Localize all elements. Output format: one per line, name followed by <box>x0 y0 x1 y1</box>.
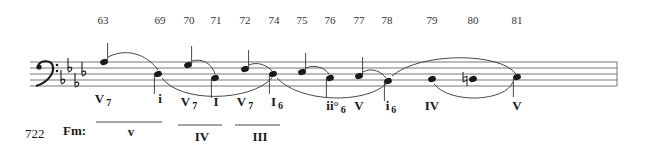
key-label: Fm: <box>63 123 86 139</box>
staff <box>30 62 617 86</box>
measure-number: 71 <box>211 14 222 26</box>
note-head <box>427 75 437 83</box>
secondary-target: III <box>252 129 267 145</box>
measure-number: 75 <box>297 14 308 26</box>
note-head <box>297 53 307 76</box>
measure-number: 63 <box>98 14 109 26</box>
measure-number: 77 <box>354 14 365 26</box>
measure-number: 70 <box>184 14 195 26</box>
note-head <box>268 70 278 94</box>
roman-numeral: V <box>354 98 363 114</box>
note-head <box>512 73 522 97</box>
roman-numeral: V <box>512 98 521 114</box>
secondary-target: IV <box>195 129 209 145</box>
measure-number: 76 <box>325 14 336 26</box>
slurs <box>108 53 516 98</box>
roman-numeral: V7 <box>237 94 253 111</box>
measure-number: 69 <box>155 14 166 26</box>
roman-numeral: ii°6 <box>326 98 345 115</box>
roman-numeral: i <box>158 91 162 107</box>
roman-numeral: I <box>213 94 218 110</box>
roman-numeral: I6 <box>271 94 283 111</box>
bracket-lines <box>96 122 280 125</box>
measure-number: 79 <box>427 14 438 26</box>
note-head <box>99 43 109 66</box>
example-number: 722 <box>25 126 45 142</box>
notes <box>99 43 522 101</box>
secondary-target: v <box>128 124 135 140</box>
measure-number: 74 <box>269 14 280 26</box>
roman-numeral: V7 <box>95 91 111 108</box>
measure-number: 81 <box>512 14 523 26</box>
measure-number: 80 <box>468 14 479 26</box>
roman-numeral: IV <box>425 98 439 114</box>
note-head <box>354 57 364 80</box>
roman-numeral: i6 <box>386 98 397 115</box>
note-head <box>183 46 193 69</box>
roman-numeral: V7 <box>181 94 197 111</box>
measure-number: 78 <box>382 14 393 26</box>
flat-icon <box>68 58 72 72</box>
flat-icon <box>61 70 65 84</box>
measure-number: 72 <box>240 14 251 26</box>
